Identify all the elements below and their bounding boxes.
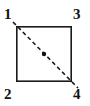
geometry-figure: 1 3 2 4 (0, 0, 90, 106)
corner-label-2: 2 (4, 87, 12, 102)
center-point-dot (42, 52, 46, 56)
corner-label-1: 1 (4, 7, 12, 22)
corner-label-3: 3 (73, 7, 81, 22)
corner-label-4: 4 (73, 87, 81, 102)
